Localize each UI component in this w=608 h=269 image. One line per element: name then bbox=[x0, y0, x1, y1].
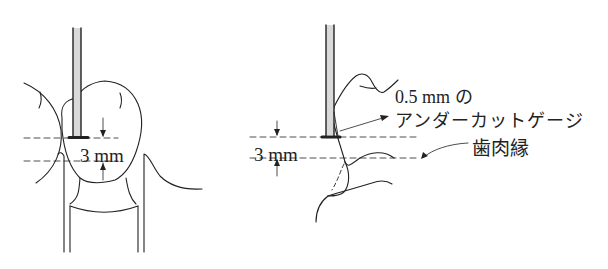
tooth-profile-outline bbox=[334, 74, 398, 107]
left-measurement-label: 3 mm bbox=[80, 146, 124, 165]
gingival-margin-label: 歯肉縁 bbox=[472, 139, 529, 158]
figure: 3 mm 3 mm 0.5 mm の アンダーカットゲージ 歯肉縁 bbox=[0, 0, 608, 269]
gingiva-contour bbox=[345, 153, 394, 165]
left-panel-drawing bbox=[24, 81, 202, 252]
adjacent-tooth-outline bbox=[24, 83, 61, 183]
gingiva-leader-line bbox=[424, 143, 468, 157]
right-measurement-label: 3 mm bbox=[254, 145, 298, 164]
gauge-leader-line bbox=[340, 117, 386, 131]
cervical-line bbox=[70, 206, 138, 212]
diagram-canvas bbox=[0, 0, 608, 269]
right-gauge-rod bbox=[322, 25, 340, 137]
left-gauge-rod bbox=[69, 28, 88, 138]
gauge-label-line2: アンダーカットゲージ bbox=[395, 112, 584, 130]
gauge-label-line1: 0.5 mm の bbox=[395, 88, 473, 106]
